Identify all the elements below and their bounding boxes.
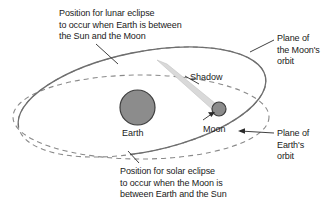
earth-body [120, 90, 155, 125]
label-earth: Earth [122, 128, 144, 138]
label-plane-of-earths-orbit: Plane of Earth's orbit [277, 128, 309, 163]
label-lunar-eclipse-position: Position for lunar eclipse to occur when… [59, 8, 182, 43]
label-shadow: Shadow [190, 72, 223, 82]
leader-line-plane-moon [250, 40, 274, 52]
moon-body [212, 102, 226, 116]
leader-line-moon [203, 112, 215, 120]
label-plane-of-moons-orbit: Plane of the Moon's orbit [277, 33, 320, 68]
shadow-cone-shape [157, 60, 221, 110]
label-moon: Moon [203, 124, 226, 134]
leader-line-solar-eclipse [128, 151, 139, 163]
leader-line-plane-earth [238, 128, 274, 133]
label-solar-eclipse-position: Position for solar eclipse to occur when… [120, 166, 227, 201]
earth-shadow-cone [157, 60, 221, 110]
eclipse-diagram: Position for lunar eclipse to occur when… [0, 0, 330, 208]
